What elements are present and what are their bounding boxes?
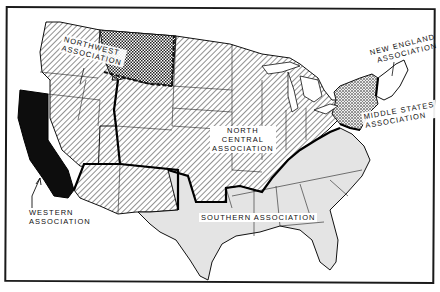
- label-line: Association: [212, 144, 274, 153]
- label-line: North: [212, 126, 274, 135]
- label-western-association: Western Association: [27, 208, 93, 226]
- label-line: Western: [29, 208, 91, 217]
- region-new-england: [376, 60, 408, 100]
- label-line: Association: [29, 217, 91, 226]
- label-line: Southern Association: [201, 213, 315, 222]
- western-arrow: [32, 178, 41, 208]
- label-southern-association: Southern Association: [199, 213, 317, 222]
- label-line: Central: [212, 135, 274, 144]
- label-north-central-association: North Central Association: [210, 126, 276, 153]
- region-southwest-north-central: [74, 164, 178, 214]
